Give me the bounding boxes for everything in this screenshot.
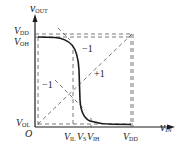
slope-label-diagonal: +1 — [94, 69, 105, 79]
y-tick-vdd: VDD — [14, 26, 29, 36]
y-axis-arrow-icon — [33, 14, 38, 22]
x-tick-vih: VIH — [87, 132, 99, 142]
slope-label-upper: −1 — [82, 44, 93, 54]
y-tick-vol: VOL — [16, 118, 30, 128]
x-tick-vil: VIL — [64, 132, 76, 142]
y-axis-label: vOUT — [30, 2, 48, 14]
origin-label: O — [25, 129, 32, 139]
x-axis-label: vIN — [160, 121, 172, 133]
slope-label-left: −1 — [42, 80, 53, 90]
y-tick-voh: VOH — [14, 37, 29, 47]
x-tick-vdd: VDD — [123, 132, 138, 142]
x-tick-vs: VS — [77, 132, 86, 142]
vtc-diagram: vOUT vIN O VDD VOH VOL VIL VS VIH VDD −1… — [0, 0, 183, 153]
